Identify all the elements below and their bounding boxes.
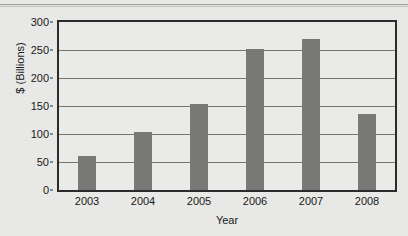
x-tick-label: 2008 xyxy=(355,195,379,207)
bar xyxy=(78,156,96,190)
y-tick-label: 250 xyxy=(31,44,49,56)
bar xyxy=(358,114,376,190)
y-tick-mark xyxy=(50,22,53,23)
bar xyxy=(302,39,320,190)
y-tick-mark xyxy=(50,106,53,107)
x-tick-label: 2006 xyxy=(243,195,267,207)
y-axis-title: $ (Billions) xyxy=(14,8,26,128)
bar-series xyxy=(59,22,395,190)
plot-area xyxy=(57,20,397,192)
x-tick-label: 2007 xyxy=(299,195,323,207)
y-tick-label: 0 xyxy=(43,184,49,196)
y-tick-mark xyxy=(50,50,53,51)
y-tick-label: 150 xyxy=(31,100,49,112)
y-tick-label: 200 xyxy=(31,72,49,84)
y-tick-label: 300 xyxy=(31,16,49,28)
y-tick-label: 100 xyxy=(31,128,49,140)
bar xyxy=(134,132,152,190)
x-axis-title: Year xyxy=(57,214,397,226)
bar xyxy=(190,104,208,190)
top-divider-rule-secondary xyxy=(0,6,408,7)
y-tick-mark xyxy=(50,190,53,191)
x-tick-label: 2003 xyxy=(75,195,99,207)
x-tick-label: 2005 xyxy=(187,195,211,207)
y-tick-mark xyxy=(50,78,53,79)
bar xyxy=(246,49,264,190)
x-tick-label: 2004 xyxy=(131,195,155,207)
top-divider-rule xyxy=(0,4,408,5)
x-axis-ticks: 200320042005200620072008 xyxy=(57,195,397,211)
y-tick-mark xyxy=(50,162,53,163)
bar-chart-figure: 050100150200250300 $ (Billions) 20032004… xyxy=(0,0,408,236)
y-tick-label: 50 xyxy=(37,156,49,168)
y-tick-mark xyxy=(50,134,53,135)
